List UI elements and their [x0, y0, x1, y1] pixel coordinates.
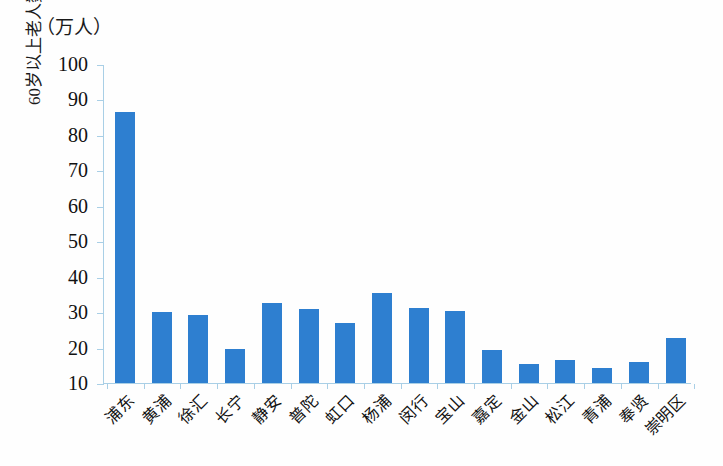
x-axis-tick [584, 384, 585, 389]
x-axis-tick [511, 384, 512, 389]
y-axis-tick-label: 50 [68, 231, 88, 251]
y-axis-tick: 30 [97, 313, 104, 314]
bar [519, 364, 539, 383]
x-axis-tick [327, 384, 328, 389]
x-axis-tick [437, 384, 438, 389]
bar [115, 112, 135, 383]
y-axis-tick-label: 40 [68, 267, 88, 287]
x-axis-tick [217, 384, 218, 389]
bar [262, 303, 282, 383]
bar [225, 349, 245, 383]
chart-canvas: （万人） 60岁以上老人数量 100908070605040302010 浦东黄… [0, 0, 723, 466]
y-axis-tick-label: 90 [68, 89, 88, 109]
y-axis-tick-label: 60 [68, 196, 88, 216]
x-axis-tick [547, 384, 548, 389]
plot-area: 100908070605040302010 [103, 65, 691, 384]
y-axis-tick: 40 [97, 278, 104, 279]
y-axis-tick-label: 70 [68, 160, 88, 180]
bar [299, 309, 319, 383]
x-axis-tick [474, 384, 475, 389]
x-axis-tick [364, 384, 365, 389]
x-axis-tick [144, 384, 145, 389]
x-axis-line [103, 383, 691, 384]
y-axis-tick: 60 [97, 207, 104, 208]
x-axis-tick [621, 384, 622, 389]
x-axis-tick [254, 384, 255, 389]
bar [335, 323, 355, 383]
y-axis-title-text: 60岁以上老人数量 [20, 0, 45, 162]
bar [445, 311, 465, 383]
x-axis-tick [107, 384, 108, 389]
y-axis-line [103, 65, 104, 384]
bar [188, 315, 208, 383]
y-axis-tick-label: 30 [68, 302, 88, 322]
y-axis-tick-label: 80 [68, 125, 88, 145]
y-axis-tick: 20 [97, 349, 104, 350]
y-axis-tick: 80 [97, 136, 104, 137]
y-axis-tick: 10 [97, 384, 104, 385]
x-axis-tick [291, 384, 292, 389]
y-axis-tick: 90 [97, 100, 104, 101]
y-axis-title: 60岁以上老人数量 [20, 0, 42, 162]
y-axis-tick: 70 [97, 171, 104, 172]
y-axis-tick-label: 20 [68, 338, 88, 358]
x-axis-tick [401, 384, 402, 389]
bar [409, 308, 429, 383]
y-axis-tick-label: 10 [68, 373, 88, 393]
bar [666, 338, 686, 383]
x-axis-tick [694, 384, 695, 389]
y-axis-tick: 100 [97, 65, 104, 66]
y-axis-tick: 50 [97, 242, 104, 243]
bar [152, 312, 172, 383]
bar [482, 350, 502, 383]
bar [555, 360, 575, 383]
bar [629, 362, 649, 383]
bar [372, 293, 392, 383]
x-axis-tick [180, 384, 181, 389]
bar [592, 368, 612, 383]
y-axis-unit-label: （万人） [36, 12, 112, 39]
y-axis-tick-label: 100 [58, 54, 88, 74]
x-axis-tick [658, 384, 659, 389]
